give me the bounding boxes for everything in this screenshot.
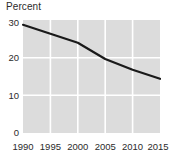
x-axis-tick-labels: 1990 1995 2000 2005 2010 2015 (12, 141, 168, 152)
y-tick-0: 0 (14, 127, 19, 138)
y-tick-10: 10 (8, 90, 19, 101)
x-tick-1990: 1990 (12, 141, 33, 152)
chart-canvas: 30 20 10 0 1990 1995 2000 2005 2010 2015 (0, 0, 171, 155)
y-axis-tick-labels: 30 20 10 0 (8, 17, 19, 138)
x-tick-2000: 2000 (67, 141, 88, 152)
x-tick-2015: 2015 (147, 141, 168, 152)
x-tick-2010: 2010 (122, 141, 143, 152)
y-tick-30: 30 (8, 17, 19, 28)
x-tick-1995: 1995 (40, 141, 61, 152)
plot-area-background (23, 20, 160, 133)
y-tick-20: 20 (8, 52, 19, 63)
x-tick-2005: 2005 (95, 141, 116, 152)
percent-line-chart: Percent 30 20 10 0 1990 1995 20 (0, 0, 171, 155)
